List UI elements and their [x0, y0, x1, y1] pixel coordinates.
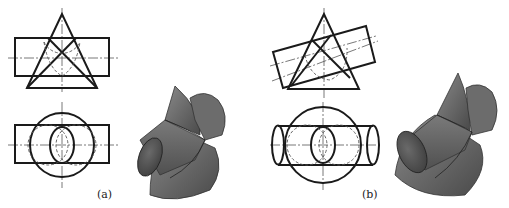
figure-b-front-view — [270, 8, 378, 100]
figure-b-3d-model — [391, 73, 497, 196]
figure-a-front-view — [8, 8, 118, 92]
figure-a-caption: (a) — [97, 188, 112, 201]
drawing-canvas — [0, 0, 509, 208]
figure-a-top-view — [8, 102, 118, 188]
figure-a-3d-model — [133, 86, 225, 199]
figure-b-top-view — [270, 102, 380, 190]
figure-b-caption: (b) — [362, 188, 378, 201]
